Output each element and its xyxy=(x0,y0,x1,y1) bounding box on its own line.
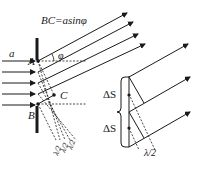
half-wave-label: λ/2 xyxy=(143,147,156,158)
zone-2-label: ΔS xyxy=(103,122,116,134)
point-b-label: B xyxy=(28,109,35,121)
point-c-label: C xyxy=(60,89,68,101)
zone-figure xyxy=(117,76,155,150)
angle-label: φ xyxy=(58,50,64,61)
single-slit-diffraction-diagram: BC=asinφ a A B C φ xyxy=(0,0,198,170)
point-a-label: A xyxy=(27,55,35,67)
slit-width-label: a xyxy=(9,47,15,59)
ray-from-b xyxy=(38,95,54,104)
zone-rays xyxy=(129,44,190,147)
incident-rays xyxy=(2,61,35,105)
half-wave-marks: λ/2 λ/2 λ/2 xyxy=(51,139,77,158)
wavefront-lines xyxy=(38,61,76,140)
zone-2-midpoint xyxy=(127,126,130,129)
angle-arc xyxy=(52,54,54,61)
zone-1-midpoint xyxy=(127,93,130,96)
zone-1-label: ΔS xyxy=(103,88,116,100)
formula-label: BC=asinφ xyxy=(41,14,87,26)
